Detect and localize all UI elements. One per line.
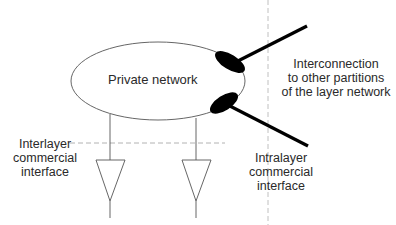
network-partition-diagram: [0, 0, 396, 225]
interconnection-line-2: to other partitions: [276, 71, 396, 85]
right-adaptation-triangle: [182, 160, 211, 201]
intralayer-label: Intralayer commercial interface: [239, 151, 323, 193]
intralayer-line-2: commercial: [239, 165, 323, 179]
interlayer-line-3: interface: [10, 165, 80, 179]
lower-interconnection-link: [226, 104, 308, 146]
private-network-label: Private network: [108, 73, 198, 87]
lower-connection-point: [206, 88, 241, 118]
interconnection-line-3: of the layer network: [276, 85, 396, 99]
interconnection-label: Interconnection to other partitions of t…: [276, 57, 396, 99]
interconnection-line-1: Interconnection: [276, 57, 396, 71]
left-adaptation-triangle: [96, 160, 125, 201]
intralayer-line-3: interface: [239, 179, 323, 193]
interlayer-line-1: Interlayer: [10, 137, 80, 151]
intralayer-line-1: Intralayer: [239, 151, 323, 165]
interlayer-line-2: commercial: [10, 151, 80, 165]
interlayer-label: Interlayer commercial interface: [10, 137, 80, 179]
